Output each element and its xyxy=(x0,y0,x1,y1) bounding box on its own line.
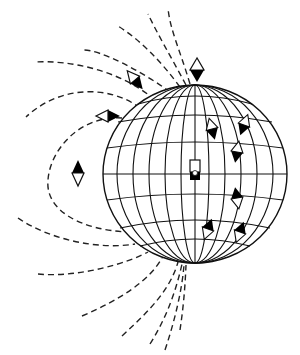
compass-needle-icon xyxy=(72,160,84,186)
compass-needle-icon xyxy=(190,58,204,82)
compass-needle-icon xyxy=(123,67,148,93)
magnetic-field-diagram xyxy=(0,0,300,355)
bar-magnet xyxy=(190,160,200,180)
